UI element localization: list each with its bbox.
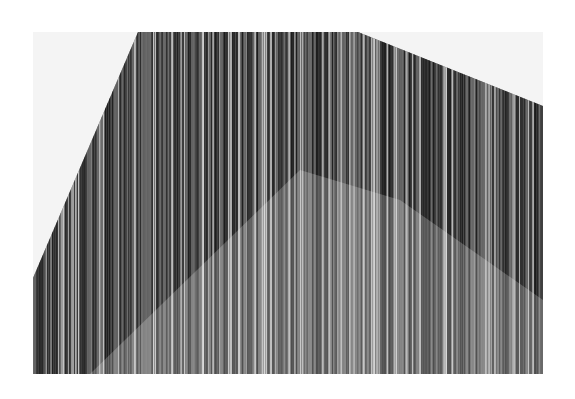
artwork-canvas [0, 0, 575, 399]
